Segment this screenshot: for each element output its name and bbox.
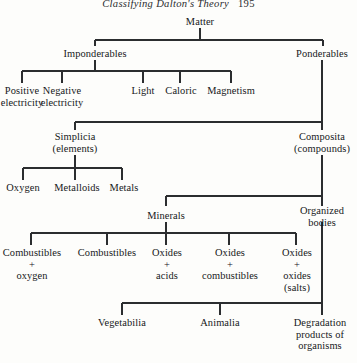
node-light: Light: [131, 85, 154, 97]
node-degradation-products: Degradation products of organisms: [294, 317, 346, 352]
node-metalloids: Metalloids: [54, 182, 99, 194]
node-positive-electricity: Positive electricity: [1, 85, 44, 108]
node-combustibles-oxygen: Combustibles + oxygen: [3, 247, 61, 282]
node-magnetism: Magnetism: [207, 85, 255, 97]
node-negative-electricity: Negative electricity: [41, 85, 84, 108]
node-composita: Composita (compounds): [294, 131, 350, 154]
node-ponderables: Ponderables: [296, 48, 348, 60]
node-oxides-acids: Oxides + acids: [152, 247, 182, 282]
node-organized-bodies: Organized bodies: [300, 205, 344, 228]
node-oxides-combustibles: Oxides + combustibles: [202, 247, 258, 282]
node-oxygen: Oxygen: [6, 182, 40, 194]
node-matter: Matter: [186, 16, 214, 28]
node-combustibles: Combustibles: [78, 247, 136, 259]
node-vegetabilia: Vegetabilia: [98, 317, 146, 329]
node-oxides-oxides-salts: Oxides + oxides (salts): [282, 247, 312, 293]
node-simplicia: Simplicia (elements): [53, 131, 98, 154]
node-minerals: Minerals: [147, 210, 185, 222]
node-imponderables: Imponderables: [63, 48, 126, 60]
node-caloric: Caloric: [165, 85, 196, 97]
node-metals: Metals: [110, 182, 139, 194]
classification-diagram: Matter Imponderables Ponderables Positiv…: [0, 0, 357, 363]
node-animalia: Animalia: [200, 317, 239, 329]
